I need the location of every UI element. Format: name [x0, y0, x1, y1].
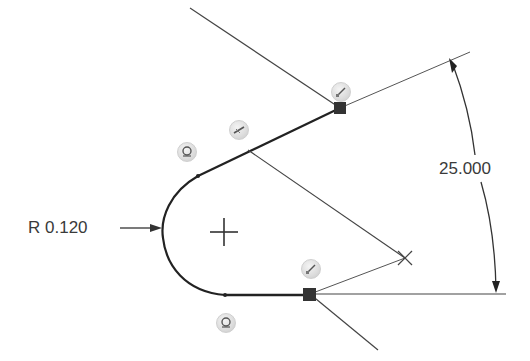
upper-reference-line[interactable] [190, 8, 340, 108]
radius-dimension-label[interactable]: R 0.120 [26, 219, 90, 237]
angle-dimension-label[interactable]: 25.000 [437, 160, 493, 178]
tangent-point-upper[interactable] [196, 174, 200, 178]
endpoint-upper[interactable] [334, 102, 346, 114]
lower-reference-line[interactable] [310, 294, 378, 350]
endpoint-lower[interactable] [303, 288, 316, 301]
sketch-canvas[interactable] [0, 0, 530, 361]
perpendicular-relation-icon[interactable] [229, 120, 249, 140]
angle-dimension-arc-lower[interactable] [481, 182, 496, 290]
tangent-relation-icon[interactable] [177, 142, 197, 162]
arc-center-cross-icon[interactable] [210, 218, 238, 246]
coincident-relation-icon[interactable] [331, 82, 351, 102]
tangent-point-lower[interactable] [223, 293, 227, 297]
bisector-line[interactable] [310, 258, 405, 294]
upper-tangent-line[interactable] [198, 108, 340, 176]
perpendicular-line[interactable] [248, 150, 405, 258]
coincident-relation-icon[interactable] [301, 259, 321, 279]
angle-arrow-bottom-icon [492, 281, 500, 293]
angle-dimension-arc[interactable] [452, 62, 475, 155]
intersection-x-icon [398, 251, 412, 265]
radius-arrow-icon [150, 224, 162, 232]
fillet-arc[interactable] [162, 176, 225, 295]
tangent-relation-icon[interactable] [216, 313, 236, 333]
